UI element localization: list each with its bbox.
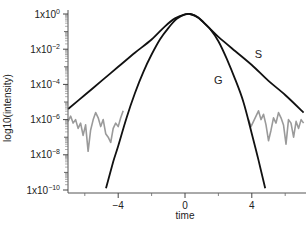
- series-noise-right-line: [249, 111, 304, 144]
- curve-label-s: S: [255, 48, 262, 60]
- plot-series: [68, 14, 304, 189]
- y-axis-title: log10(intensity): [2, 74, 13, 142]
- y-tick-label: 1x10−4: [30, 78, 60, 90]
- y-tick-label: 1x10−8: [30, 148, 60, 160]
- y-tick-label: 1x100: [34, 8, 60, 20]
- y-tick-label: 1x10−2: [30, 43, 60, 55]
- series-g-line: [106, 14, 265, 188]
- series-s-line: [68, 14, 304, 113]
- x-tick-label: 4: [249, 200, 255, 211]
- x-axis-title: time: [176, 210, 195, 221]
- chart-canvas: −4041x1001x10−21x10−41x10−61x10−81x10−10…: [0, 0, 308, 231]
- axes: [63, 10, 306, 198]
- series-noise-left-line: [68, 111, 123, 152]
- y-tick-label: 1x10−6: [30, 113, 60, 125]
- x-tick-label: −4: [112, 200, 124, 211]
- y-tick-label: 1x10−10: [26, 184, 60, 196]
- curve-label-g: G: [214, 74, 223, 86]
